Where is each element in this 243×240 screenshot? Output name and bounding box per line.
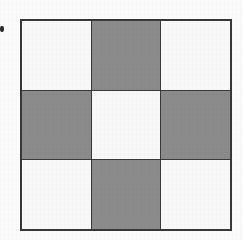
checkerboard-cell-r3c1 [22,160,92,230]
margin-dot-marker [0,26,4,32]
checkerboard-cell-r1c2 [91,21,161,91]
checkerboard-cell-r1c3 [161,21,231,91]
checkerboard-cell-r1c1 [22,21,92,91]
checkerboard-row [22,160,231,230]
checkerboard-grid-body [22,21,231,230]
checkerboard-cell-r2c3 [161,90,231,160]
checkerboard-figure [20,19,232,231]
checkerboard-row [22,90,231,160]
checkerboard-cell-r2c1 [22,90,92,160]
checkerboard-cell-r3c2 [91,160,161,230]
checkerboard-row [22,21,231,91]
checkerboard-cell-r3c3 [161,160,231,230]
checkerboard-grid [21,20,231,230]
checkerboard-cell-r2c2 [91,90,161,160]
